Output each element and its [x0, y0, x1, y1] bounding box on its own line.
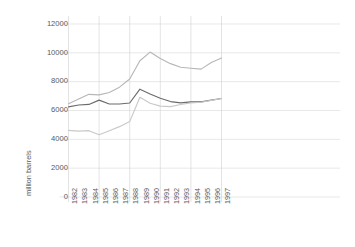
x-tick-label-1993: 1993 [183, 188, 191, 204]
x-tick-label-1991: 1991 [163, 188, 171, 204]
line-chart: 020004000600080001000012000 198219831984… [0, 0, 355, 247]
x-tick-label-1985: 1985 [102, 188, 110, 204]
x-tick-label-1986: 1986 [112, 188, 120, 204]
x-tick-label-1994: 1994 [194, 188, 202, 204]
y-axis-title: million barrels [24, 150, 33, 196]
x-tick-label-1984: 1984 [92, 188, 100, 204]
x-tick-label-1989: 1989 [143, 188, 151, 204]
x-axis-ticks: 1982198319841985198619871988198919901991… [0, 0, 355, 247]
x-tick-label-1988: 1988 [132, 188, 140, 204]
x-tick-label-1983: 1983 [81, 188, 89, 204]
x-tick-label-1990: 1990 [153, 188, 161, 204]
x-tick-label-1996: 1996 [214, 188, 222, 204]
x-tick-label-1995: 1995 [204, 188, 212, 204]
x-tick-label-1987: 1987 [122, 188, 130, 204]
x-tick-label-1997: 1997 [224, 188, 232, 204]
x-tick-label-1992: 1992 [173, 188, 181, 204]
x-tick-label-1982: 1982 [71, 188, 79, 204]
